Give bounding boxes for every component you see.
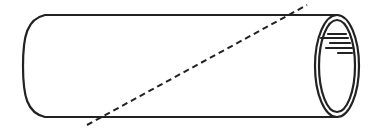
cylinder-open-end [315, 15, 359, 117]
cylinder-outline [23, 15, 337, 117]
cylinder-diagram [0, 0, 381, 133]
cylinder-drawing [0, 0, 381, 133]
cut-line [87, 5, 307, 125]
cylinder-body [23, 15, 337, 117]
dashed-cut-line [87, 5, 307, 125]
